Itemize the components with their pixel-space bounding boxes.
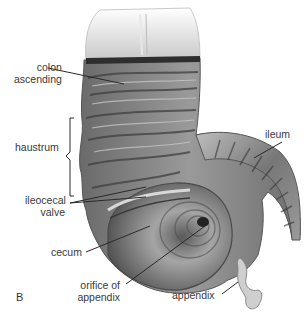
label-orifice-line1: orifice of — [75, 279, 120, 291]
colon-cecum-illustration — [0, 0, 308, 321]
appendix-orifice — [197, 217, 209, 227]
anatomy-figure: colon ascending haustrum ileocecal valve… — [0, 0, 308, 321]
label-haustrum: haustrum — [15, 141, 59, 153]
haustrum-bracket — [66, 118, 74, 196]
label-colon-ascending: colon ascending — [14, 61, 62, 85]
label-appendix: appendix — [172, 289, 215, 301]
label-colon-line1: colon — [14, 61, 62, 73]
label-orifice-line2: appendix — [75, 291, 120, 303]
cecum — [108, 183, 232, 290]
label-cecum: cecum — [51, 246, 82, 258]
label-colon-line2: ascending — [14, 73, 62, 85]
label-ileocecal-valve: ileocecal valve — [25, 194, 65, 218]
label-ileocecal-line1: ileocecal — [25, 194, 65, 206]
panel-letter: B — [16, 291, 23, 303]
label-ileocecal-line2: valve — [25, 206, 65, 218]
label-ileum: ileum — [265, 128, 290, 140]
label-orifice-of-appendix: orifice of appendix — [75, 279, 120, 303]
